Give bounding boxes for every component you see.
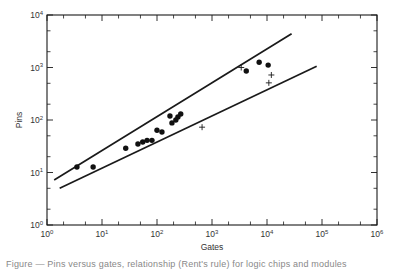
data-point-dot	[159, 129, 164, 134]
data-point-dot	[167, 113, 172, 118]
data-point-dot	[244, 68, 249, 73]
x-axis-label: Gates	[201, 242, 224, 252]
x-tick-label: 101	[96, 229, 109, 240]
data-point-dot	[144, 138, 149, 143]
data-points-crosses	[199, 65, 274, 131]
x-tick-label: 100	[41, 229, 54, 240]
axis-tick-labels: 100101102103104105106100101102103104	[30, 10, 384, 240]
lower-bound-line	[60, 66, 317, 188]
x-tick-label: 104	[261, 229, 274, 240]
data-point-dot	[149, 138, 154, 143]
data-point-dot	[256, 60, 261, 65]
data-point-cross	[199, 124, 205, 130]
data-point-dot	[123, 146, 128, 151]
data-point-cross	[268, 72, 274, 78]
axis-ticks	[47, 15, 377, 225]
data-point-dot	[265, 62, 270, 67]
data-point-dot	[74, 164, 79, 169]
x-tick-label: 105	[316, 229, 329, 240]
x-tick-label: 103	[206, 229, 219, 240]
y-tick-label: 102	[30, 115, 43, 126]
data-point-dot	[90, 164, 95, 169]
upper-bound-line	[54, 34, 291, 180]
x-tick-label: 102	[151, 229, 164, 240]
plot-frame	[47, 15, 377, 225]
y-tick-label: 104	[30, 10, 43, 21]
y-tick-label: 101	[30, 167, 43, 178]
y-tick-label: 103	[30, 62, 43, 73]
y-axis-label: Pins	[14, 112, 24, 129]
data-point-cross	[266, 80, 272, 86]
data-point-dot	[135, 141, 140, 146]
data-point-dot	[154, 127, 159, 132]
data-points-dots	[74, 60, 271, 170]
figure-caption: Figure — Pins versus gates, relationship…	[6, 259, 387, 271]
x-tick-label: 106	[371, 229, 384, 240]
data-point-dot	[178, 111, 183, 116]
